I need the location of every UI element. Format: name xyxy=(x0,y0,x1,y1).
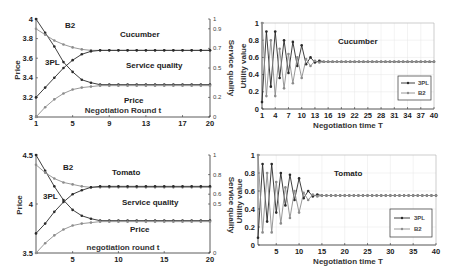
y-tick-label: 3.5 xyxy=(23,249,33,258)
data-point xyxy=(163,220,166,223)
data-point xyxy=(348,194,351,197)
data-point xyxy=(71,224,74,227)
data-point xyxy=(403,194,406,197)
data-point xyxy=(35,252,38,255)
data-point xyxy=(80,214,83,217)
data-point xyxy=(172,220,175,223)
legend-3pl: 3PL xyxy=(418,80,429,86)
data-point xyxy=(80,189,83,192)
chart-title: Tomato xyxy=(112,168,140,177)
data-point xyxy=(181,84,184,87)
x-axis-label: negotiation round t xyxy=(87,243,160,252)
data-point xyxy=(62,61,65,64)
data-point xyxy=(190,49,193,52)
x-tick-label: 40 xyxy=(430,111,438,120)
y-tick-label: 0.8 xyxy=(245,169,255,178)
y-axis-label: Price xyxy=(13,60,22,80)
data-point xyxy=(275,181,278,184)
data-point xyxy=(300,77,303,80)
data-point xyxy=(398,194,401,197)
y-tick-label: 0.2 xyxy=(245,223,255,232)
data-point xyxy=(53,98,56,101)
data-point xyxy=(71,183,74,186)
y-right-tick-label: 0.9 xyxy=(213,26,222,32)
chart-tomato-price-quality: 51015203.544.500.50.60.81 Tomato negotia… xyxy=(0,139,228,279)
legend-3pl: 3PL xyxy=(414,215,425,221)
data-point xyxy=(289,174,292,177)
data-point xyxy=(371,194,374,197)
y-tick-label: 0.4 xyxy=(249,70,260,79)
legend-b2: B2 xyxy=(418,90,426,96)
data-point xyxy=(154,220,157,223)
data-point xyxy=(307,199,310,202)
data-point xyxy=(428,60,431,63)
data-point xyxy=(343,194,346,197)
data-point xyxy=(44,106,47,109)
data-point xyxy=(53,177,56,180)
chart-cucumber-price-quality: 15913172033.23.43.63.8400.20.50.70.91 Cu… xyxy=(0,0,228,140)
y-tick-label: 3.8 xyxy=(23,34,33,43)
x-tick-label: 30 xyxy=(386,247,394,256)
y-tick-label: 4 xyxy=(29,15,34,24)
x-tick-label: 15 xyxy=(318,247,326,256)
data-point xyxy=(314,60,317,63)
chart-canvas: 51015202530354000.20.40.60.81 Tomato Neg… xyxy=(228,139,456,279)
data-point xyxy=(353,60,356,63)
x-tick-label: 10 xyxy=(298,111,306,120)
annotation-price: Price xyxy=(124,96,144,105)
data-point xyxy=(80,185,83,188)
data-point xyxy=(265,30,268,33)
data-point xyxy=(190,185,193,188)
y-right-tick-label: 0.6 xyxy=(213,191,222,197)
data-point xyxy=(209,84,212,87)
data-point xyxy=(163,185,166,188)
data-point xyxy=(126,49,129,52)
data-point xyxy=(154,49,157,52)
data-point xyxy=(71,59,74,62)
data-point xyxy=(117,49,120,52)
data-point xyxy=(35,164,38,167)
data-point xyxy=(278,48,281,51)
data-point xyxy=(292,41,295,44)
data-point xyxy=(331,60,334,63)
data-point xyxy=(270,163,273,166)
data-point xyxy=(311,193,314,196)
data-point xyxy=(154,185,157,188)
data-point xyxy=(62,181,65,184)
y-tick-label: 0.6 xyxy=(249,53,259,62)
data-point xyxy=(375,194,378,197)
data-point xyxy=(261,101,264,104)
x-tick-label: 1 xyxy=(34,119,38,128)
x-tick-label: 1 xyxy=(260,111,264,120)
data-point xyxy=(426,194,429,197)
data-point xyxy=(62,228,65,231)
data-point xyxy=(154,84,157,87)
data-point xyxy=(300,44,303,47)
y-right-tick-label: 1 xyxy=(213,152,217,158)
data-point xyxy=(424,60,427,63)
y-right-tick-label: 0 xyxy=(213,250,217,256)
data-point xyxy=(80,222,83,225)
data-point xyxy=(181,49,184,52)
data-point xyxy=(99,185,102,188)
data-point xyxy=(353,194,356,197)
data-point xyxy=(53,77,56,80)
x-tick-label: 20 xyxy=(341,247,349,256)
x-tick-label: 5 xyxy=(71,255,75,264)
data-point xyxy=(53,45,56,48)
x-tick-label: 35 xyxy=(409,247,417,256)
chart-canvas: 147101316192225283134374000.20.40.60.81 … xyxy=(228,0,456,140)
data-point xyxy=(309,56,312,59)
data-point xyxy=(435,194,438,197)
data-point xyxy=(261,163,264,166)
data-point xyxy=(126,185,129,188)
x-tick-label: 5 xyxy=(274,247,278,256)
data-point xyxy=(419,60,422,63)
y-right-tick-label: 0.7 xyxy=(213,45,222,51)
data-point xyxy=(90,186,93,189)
data-point xyxy=(172,49,175,52)
data-point xyxy=(62,201,65,204)
data-point xyxy=(412,194,415,197)
y-right-tick-label: 0.2 xyxy=(213,94,222,100)
data-point xyxy=(99,49,102,52)
